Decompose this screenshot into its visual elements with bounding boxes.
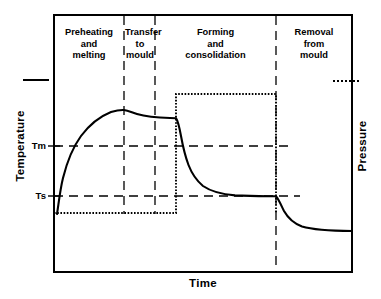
y-axis-title-pressure: Pressure [356,96,368,196]
pressure-legend-dotted-line-icon [333,80,359,82]
tick-label-ts: Ts [16,190,46,201]
process-cycle-chart: Temperature Pressure Time Tm Ts Preheati… [0,0,381,299]
stage-label-forming-and-consolidation: Forming and consolidation [157,27,274,62]
tick-label-tm: Tm [16,140,46,151]
temperature-legend-line-icon [23,79,49,81]
stage-label-transfer-to-mould: Transfer to mould [125,27,155,62]
x-axis-title-time: Time [54,277,352,289]
stage-label-removal-from-mould: Removal from mould [278,27,350,62]
stage-label-preheating-and-melting: Preheating and melting [57,27,121,62]
